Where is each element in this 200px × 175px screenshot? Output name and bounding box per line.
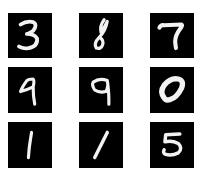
digit-tile-1: 1 bbox=[8, 122, 52, 168]
digit-9-glyph bbox=[8, 67, 52, 113]
digit-tile-8: 8 bbox=[79, 13, 123, 58]
digit-tile-7: 7 bbox=[150, 13, 194, 58]
digit-8-glyph bbox=[79, 13, 123, 58]
digit-9-glyph bbox=[79, 67, 123, 113]
digit-0-glyph bbox=[150, 67, 194, 113]
digit-tile-9b: 9 bbox=[79, 67, 123, 113]
digit-tile-5: 5 bbox=[150, 122, 194, 168]
digit-tile-0: 0 bbox=[150, 67, 194, 113]
digit-1-glyph bbox=[8, 122, 52, 168]
digit-7-glyph bbox=[150, 13, 194, 58]
digit-tile-3: 3 bbox=[8, 13, 52, 58]
digit-tile-9: 9 bbox=[8, 67, 52, 113]
digit-5-glyph bbox=[150, 122, 194, 168]
digit-1-glyph bbox=[79, 122, 123, 168]
digit-tile-1b: 1 bbox=[79, 122, 123, 168]
digit-3-glyph bbox=[8, 13, 52, 58]
